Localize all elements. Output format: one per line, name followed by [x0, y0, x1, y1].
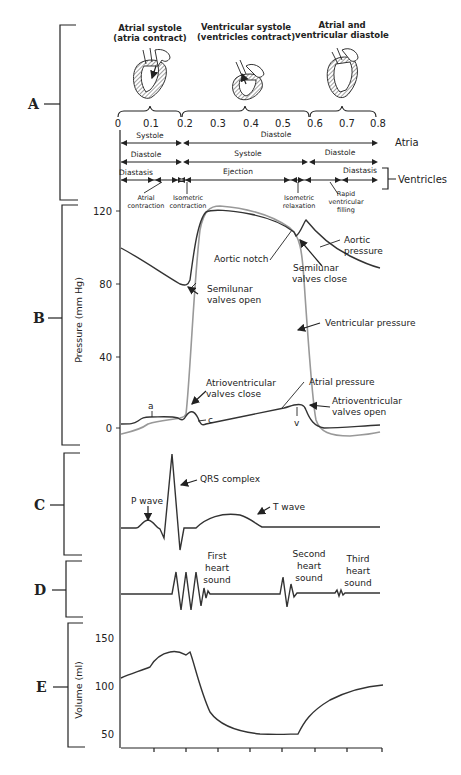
- ventricular-volume-curve: [121, 651, 383, 734]
- atria-diastole-label: Diastole: [261, 130, 292, 139]
- time-tick-8: 0.8: [370, 118, 386, 129]
- ventricles-row-label: Ventricles: [398, 174, 447, 185]
- atria-systole-label: Systole: [136, 131, 164, 140]
- section-label-c: C: [34, 497, 45, 513]
- first-sound-line1: First: [208, 551, 227, 561]
- qrs-complex-label: QRS complex: [200, 474, 261, 484]
- ventricles-systole-label: Systole: [234, 149, 262, 158]
- aortic-pressure-line1: Aortic: [344, 235, 370, 245]
- third-sound-line1: Third: [346, 554, 370, 564]
- av-close-line2: valves close: [206, 389, 261, 399]
- semilunar-close-line1: Semilunar: [293, 263, 339, 273]
- pressure-tick-120: 120: [93, 206, 112, 217]
- time-tick-4: 0.4: [243, 118, 259, 129]
- volume-tick-150: 150: [95, 633, 114, 644]
- ventricular-pressure-label: Ventricular pressure: [325, 318, 416, 328]
- pressure-tick-40: 40: [99, 352, 112, 363]
- diastasis2-label: Diastasis: [343, 166, 377, 175]
- rapid-filling-line2: ventricular: [328, 198, 363, 206]
- rapid-filling-line3: filling: [337, 206, 355, 214]
- semilunar-close-line2: valves close: [292, 274, 347, 284]
- pressure-axis-label: Pressure (mm Hg): [73, 277, 84, 363]
- phase-braces: [118, 106, 376, 117]
- ecg-panel: P wave QRS complex T wave: [121, 454, 380, 550]
- isometric-relaxation-line2: relaxation: [283, 202, 316, 210]
- phase-ventricular-systole-line2: (ventricles contract): [197, 32, 295, 42]
- time-tick-3: 0.3: [210, 118, 226, 129]
- isometric-contraction-line1: Isometric: [173, 194, 204, 202]
- time-tick-2: 0.2: [177, 118, 193, 129]
- heart-illustration-diastole: [327, 48, 358, 98]
- heart-illustration-ventricular-systole: [233, 60, 264, 100]
- second-sound-line2: heart: [297, 561, 321, 571]
- pressure-tick-0: 0: [106, 423, 112, 434]
- av-open-line2: valves open: [332, 407, 386, 417]
- rapid-filling-line1: Rapid: [337, 190, 355, 198]
- second-sound-line3: sound: [295, 573, 322, 583]
- p-wave-label: P wave: [131, 496, 163, 506]
- third-sound-line2: heart: [346, 566, 370, 576]
- aortic-notch-label: Aortic notch: [214, 254, 268, 264]
- timeline: Systole Diastole Atria Diastole Systole …: [119, 130, 447, 214]
- section-label-d: D: [34, 582, 46, 598]
- volume-tick-50: 50: [101, 729, 114, 740]
- heart-sounds-panel: First heart sound Second heart sound Thi…: [121, 549, 380, 610]
- v-wave-label: v: [294, 418, 300, 428]
- cardiac-cycle-diagram: A B C D E Atrial systole (atria contract…: [0, 0, 461, 775]
- atrial-contraction-line1: Atrial: [137, 194, 154, 202]
- heart-illustration-atrial-systole: [134, 48, 170, 98]
- time-tick-6: 0.6: [307, 118, 323, 129]
- first-sound-line2: heart: [205, 563, 229, 573]
- volume-axis-label: Volume (ml): [73, 661, 84, 719]
- phase-diastole-line1: Atrial and: [318, 20, 365, 30]
- first-sound-line3: sound: [203, 575, 230, 585]
- time-tick-0: 0: [115, 118, 121, 129]
- atrial-pressure-label: Atrial pressure: [309, 377, 375, 387]
- volume-tick-100: 100: [95, 681, 114, 692]
- second-sound-line1: Second: [292, 549, 325, 559]
- time-tick-1: 0.1: [143, 118, 159, 129]
- av-close-line1: Atrioventricular: [206, 378, 276, 388]
- ejection-label: Ejection: [223, 167, 253, 176]
- atrial-contraction-line2: contraction: [128, 202, 165, 210]
- diastasis1-label: Diastasis: [119, 168, 153, 177]
- section-label-e: E: [36, 679, 47, 695]
- c-wave-label: c: [208, 415, 213, 425]
- semilunar-open-line1: Semilunar: [207, 284, 253, 294]
- t-wave-label: T wave: [272, 502, 306, 512]
- semilunar-open-line2: valves open: [207, 295, 261, 305]
- phase-atrial-systole-line1: Atrial systole: [118, 23, 182, 33]
- section-label-a: A: [27, 96, 40, 112]
- section-label-b: B: [33, 310, 45, 326]
- ventricles-diastole1-label: Diastole: [131, 150, 162, 159]
- pressure-panel: Pressure (mm Hg) 120 80 40 0 Semilunar v…: [73, 206, 416, 436]
- third-sound-line3: sound: [344, 578, 371, 588]
- isometric-relaxation-line1: Isometric: [284, 194, 315, 202]
- phonocardiogram-trace: [121, 572, 380, 610]
- a-wave-label: a: [148, 401, 154, 411]
- pressure-tick-80: 80: [99, 279, 112, 290]
- time-axis: 0 0.1 0.2 0.3 0.4 0.5 0.6 0.7 0.8: [115, 118, 386, 129]
- phase-titles: Atrial systole (atria contract) Ventricu…: [113, 20, 389, 43]
- section-brackets: A B C D E: [27, 25, 85, 747]
- aortic-pressure-line2: pressure: [344, 246, 383, 256]
- time-tick-5: 0.5: [275, 118, 291, 129]
- phase-diastole-line2: ventricular diastole: [295, 30, 389, 40]
- atria-row-label: Atria: [395, 137, 419, 148]
- time-tick-7: 0.7: [339, 118, 355, 129]
- isometric-contraction-line2: contraction: [170, 202, 207, 210]
- phase-atrial-systole-line2: (atria contract): [113, 33, 187, 43]
- phase-ventricular-systole-line1: Ventricular systole: [201, 22, 291, 32]
- ventricles-diastole2-label: Diastole: [325, 148, 356, 157]
- av-open-line1: Atrioventricular: [332, 396, 402, 406]
